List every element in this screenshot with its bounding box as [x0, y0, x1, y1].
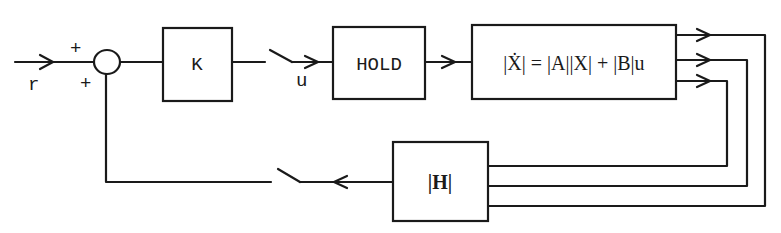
control-signal-label: u	[296, 70, 307, 92]
sampler-switch-forward	[270, 50, 292, 62]
input-label: r	[28, 74, 39, 96]
plus-sign-top: +	[70, 38, 81, 60]
output-matrix-label: |H|	[428, 171, 452, 194]
summing-junction	[94, 50, 120, 74]
gain-block: K	[163, 28, 232, 101]
block-diagram: r + + K u HOLD |Ẋ| = |A||X| + |B|u	[0, 0, 781, 233]
state-equation-label: |Ẋ| = |A||X| + |B|u	[503, 52, 644, 75]
hold-block: HOLD	[333, 27, 425, 99]
sampler-switch-feedback	[278, 169, 300, 182]
hold-label: HOLD	[356, 54, 402, 76]
plus-sign-bottom: +	[80, 73, 91, 95]
plant-block: |Ẋ| = |A||X| + |B|u	[472, 25, 676, 99]
gain-label: K	[191, 54, 203, 76]
output-matrix-block: |H|	[393, 142, 488, 221]
input-signal	[15, 55, 95, 69]
